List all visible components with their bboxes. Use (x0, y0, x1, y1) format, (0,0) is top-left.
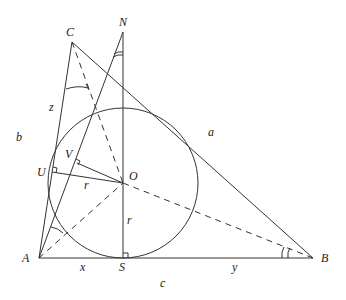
label-U: U (37, 165, 47, 179)
label-N: N (118, 15, 128, 29)
label-r-OU: r (84, 178, 89, 192)
angle-arc-B2 (288, 248, 290, 258)
label-side-c: c (160, 276, 166, 290)
label-V: V (65, 147, 74, 161)
label-O: O (129, 169, 138, 183)
label-x: x (79, 260, 86, 274)
side-CB (72, 42, 313, 258)
label-B: B (321, 251, 329, 265)
bisector-AO (39, 183, 123, 258)
angle-arc-A (51, 227, 63, 233)
label-S: S (119, 260, 125, 274)
bisector-BO (123, 183, 313, 258)
angle-arc-B (282, 247, 284, 258)
label-y: y (231, 260, 238, 274)
label-r-OS: r (127, 213, 132, 227)
angle-arc-C (66, 87, 88, 89)
label-side-b: b (16, 130, 22, 144)
right-angle-S (123, 253, 128, 258)
incircle-diagram: A B C N O S U V a b c x y z r r (0, 0, 346, 300)
label-A: A (21, 251, 30, 265)
label-z: z (48, 100, 54, 114)
label-side-a: a (208, 125, 214, 139)
label-C: C (66, 25, 75, 39)
